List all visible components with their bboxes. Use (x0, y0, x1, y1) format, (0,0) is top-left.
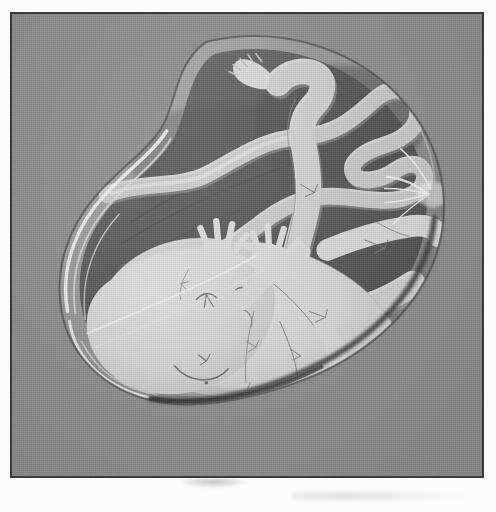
scan-page (0, 0, 496, 512)
fetus-illustration (12, 14, 482, 476)
scan-smudge (292, 489, 472, 503)
illustration-frame (10, 12, 484, 478)
scan-smudge-mark (178, 478, 248, 488)
